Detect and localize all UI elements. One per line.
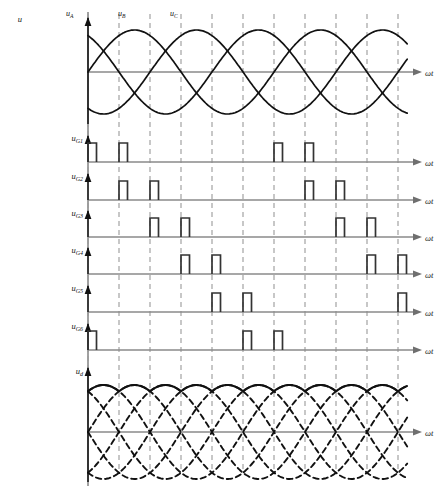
axis-y-label: uG4: [71, 245, 83, 256]
gate-pulse: [212, 255, 221, 274]
axis-arrowhead: [85, 173, 92, 182]
waveform-diagram: ωtuuAuBuCωtuG1ωtuG2ωtuG3ωtuG4ωtuG5ωtuG6ω…: [0, 0, 437, 490]
gate-pulse: [88, 143, 97, 162]
gate-pulse: [336, 218, 345, 237]
axis-arrowhead: [413, 68, 422, 75]
gate-pulse: [367, 255, 376, 274]
axis-y-label: u: [18, 14, 22, 24]
axis-arrowhead: [413, 196, 422, 203]
gate-pulse: [336, 181, 345, 200]
axis-arrowhead: [413, 270, 422, 277]
time-axis-label: ωt: [425, 346, 434, 356]
axis-arrowhead: [85, 247, 92, 256]
axis-y-label: ud: [76, 366, 84, 377]
gate-pulse: [243, 293, 252, 312]
gate-pulse: [119, 143, 128, 162]
gate-pulse: [212, 293, 221, 312]
axis-arrowhead: [413, 346, 422, 353]
gate-pulse: [305, 181, 314, 200]
gate-pulse: [181, 218, 190, 237]
phase-curve-label: uC: [170, 9, 178, 19]
figure-canvas: ωtuuAuBuCωtuG1ωtuG2ωtuG3ωtuG4ωtuG5ωtuG6ω…: [0, 0, 437, 490]
axis-arrowhead: [413, 158, 422, 165]
time-axis-label: ωt: [425, 308, 434, 318]
axis-arrowhead: [413, 308, 422, 315]
gate-pulse: [274, 143, 283, 162]
time-axis-label: ωt: [425, 233, 434, 243]
axis-y-label: uG3: [71, 208, 83, 219]
time-axis-label: ωt: [425, 68, 434, 78]
output-envelope: [88, 385, 407, 391]
gate-pulse: [398, 255, 407, 274]
axis-y-label: uG6: [71, 321, 83, 332]
time-axis-label: ωt: [425, 270, 434, 280]
gate-pulse: [119, 181, 128, 200]
gate-pulse: [150, 218, 159, 237]
gate-pulse: [88, 331, 97, 350]
axis-arrowhead: [85, 17, 92, 26]
axis-y-label: uG1: [71, 133, 83, 144]
axis-y-label: uG5: [71, 283, 83, 294]
time-axis-label: ωt: [425, 158, 434, 168]
axis-arrowhead: [85, 367, 92, 376]
axis-arrowhead: [413, 428, 422, 435]
time-axis-label: ωt: [425, 196, 434, 206]
gate-pulse: [305, 143, 314, 162]
gate-pulse: [181, 255, 190, 274]
axis-y-label: uG2: [71, 171, 83, 182]
axis-arrowhead: [85, 285, 92, 294]
gate-pulse: [367, 218, 376, 237]
gate-pulse: [398, 293, 407, 312]
gate-pulse: [150, 181, 159, 200]
time-axis-label: ωt: [425, 428, 434, 438]
phase-curve-label: uA: [66, 9, 74, 19]
axis-arrowhead: [85, 210, 92, 219]
axis-arrowhead: [413, 233, 422, 240]
gate-pulse: [274, 331, 283, 350]
phase-curve-label: uB: [118, 9, 126, 19]
gate-pulse: [243, 331, 252, 350]
